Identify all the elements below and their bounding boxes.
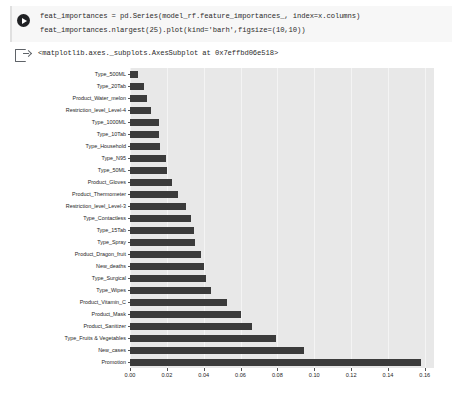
bar bbox=[130, 203, 186, 210]
y-tick-label: Type_20Tab bbox=[97, 83, 126, 90]
bar bbox=[130, 323, 252, 330]
bar-row: Restriction_level_Level-4 bbox=[130, 104, 434, 116]
y-tick-mark bbox=[128, 314, 131, 315]
code-line: feat_importances.nlargest(25).plot(kind=… bbox=[40, 23, 446, 37]
x-tick-mark bbox=[167, 368, 168, 371]
bar bbox=[130, 227, 194, 234]
y-tick-label: New_cases bbox=[98, 347, 126, 354]
bar-row: Type_Contactless bbox=[130, 212, 434, 224]
y-tick-label: Type_Household bbox=[86, 143, 126, 150]
bar-row: Type_10Tab bbox=[130, 128, 434, 140]
run-play-icon[interactable] bbox=[17, 14, 30, 27]
x-tick-mark bbox=[425, 368, 426, 371]
bar-row: Type_N95 bbox=[130, 152, 434, 164]
y-tick-mark bbox=[128, 290, 131, 291]
bar-row: Type_500ML bbox=[130, 68, 434, 80]
y-tick-label: Type_Surgical bbox=[92, 275, 126, 282]
bar bbox=[130, 311, 241, 318]
y-tick-label: New_deaths bbox=[96, 263, 126, 270]
x-tick-label: 0.02 bbox=[161, 372, 172, 378]
y-tick-label: Type_Wipes bbox=[96, 287, 126, 294]
bar bbox=[130, 107, 151, 114]
bar-row: Type_Household bbox=[130, 140, 434, 152]
bar bbox=[130, 347, 304, 354]
bar-row: Product_Vitamin_C bbox=[130, 296, 434, 308]
bar-row: Product_Mask bbox=[130, 308, 434, 320]
bar bbox=[130, 143, 160, 150]
x-tick-label: 0.06 bbox=[235, 372, 246, 378]
y-tick-mark bbox=[128, 230, 131, 231]
y-tick-mark bbox=[128, 362, 131, 363]
bar-row: Type_Fruits & Vegetables bbox=[130, 332, 434, 344]
y-tick-label: Type_1000ML bbox=[92, 119, 126, 126]
y-tick-label: Restriction_level_Level-4 bbox=[66, 107, 126, 114]
bar bbox=[130, 167, 167, 174]
code-cell[interactable]: feat_importances = pd.Series(model_rf.fe… bbox=[10, 6, 452, 42]
y-tick-mark bbox=[128, 134, 131, 135]
y-tick-mark bbox=[128, 194, 131, 195]
bar bbox=[130, 251, 201, 258]
y-tick-mark bbox=[128, 86, 131, 87]
bar-row: Type_Spray bbox=[130, 236, 434, 248]
matplotlib-figure: 0.000.020.040.060.080.100.120.140.16Type… bbox=[0, 64, 460, 404]
y-tick-mark bbox=[128, 98, 131, 99]
y-tick-mark bbox=[128, 266, 131, 267]
x-tick-mark bbox=[388, 368, 389, 371]
y-tick-mark bbox=[128, 182, 131, 183]
bar bbox=[130, 263, 204, 270]
bar bbox=[130, 215, 191, 222]
x-tick-label: 0.14 bbox=[382, 372, 393, 378]
bar bbox=[130, 359, 421, 366]
y-tick-mark bbox=[128, 146, 131, 147]
output-arrow-icon bbox=[15, 49, 26, 62]
bar bbox=[130, 191, 178, 198]
y-tick-mark bbox=[128, 242, 131, 243]
code-editor[interactable]: feat_importances = pd.Series(model_rf.fe… bbox=[40, 9, 446, 37]
y-tick-label: Product_Mask bbox=[92, 311, 126, 318]
bar-row: Type_20Tab bbox=[130, 80, 434, 92]
y-tick-mark bbox=[128, 206, 131, 207]
y-tick-label: Promotion bbox=[101, 359, 126, 366]
chart-axes: 0.000.020.040.060.080.100.120.140.16Type… bbox=[130, 68, 434, 368]
y-tick-label: Product_Gloves bbox=[88, 179, 126, 186]
colab-notebook: feat_importances = pd.Series(model_rf.fe… bbox=[0, 0, 460, 404]
y-tick-mark bbox=[128, 302, 131, 303]
y-tick-mark bbox=[128, 122, 131, 123]
y-tick-mark bbox=[128, 218, 131, 219]
output-cell: <matplotlib.axes._subplots.AxesSubplot a… bbox=[10, 46, 450, 66]
bar bbox=[130, 119, 159, 126]
bar bbox=[130, 335, 276, 342]
bar-row: Restriction_level_Level-3 bbox=[130, 200, 434, 212]
y-tick-label: Restriction_level_Level-3 bbox=[66, 203, 126, 210]
y-tick-mark bbox=[128, 254, 131, 255]
y-tick-label: Type_N95 bbox=[101, 155, 126, 162]
bar bbox=[130, 83, 144, 90]
y-tick-mark bbox=[128, 338, 131, 339]
y-tick-mark bbox=[128, 326, 131, 327]
x-tick-mark bbox=[130, 368, 131, 371]
y-tick-label: Type_50ML bbox=[98, 167, 126, 174]
y-tick-label: Type_Contactless bbox=[83, 215, 126, 222]
x-tick-label: 0.16 bbox=[419, 372, 430, 378]
bar-row: Product_Sanitizer bbox=[130, 320, 434, 332]
bar-row: New_deaths bbox=[130, 260, 434, 272]
bar-row: Product_Thermometer bbox=[130, 188, 434, 200]
y-tick-label: Product_Vitamin_C bbox=[80, 299, 126, 306]
bar-row: Product_Dragon_fruit bbox=[130, 248, 434, 260]
code-line: feat_importances = pd.Series(model_rf.fe… bbox=[40, 9, 446, 23]
bar-row: New_cases bbox=[130, 344, 434, 356]
x-tick-mark bbox=[277, 368, 278, 371]
y-tick-mark bbox=[128, 278, 131, 279]
bar bbox=[130, 95, 147, 102]
bar bbox=[130, 275, 206, 282]
y-tick-label: Product_Water_melon bbox=[73, 95, 126, 102]
bar bbox=[130, 239, 195, 246]
x-tick-label: 0.10 bbox=[309, 372, 320, 378]
x-tick-label: 0.08 bbox=[272, 372, 283, 378]
bar-row: Type_50ML bbox=[130, 164, 434, 176]
y-tick-mark bbox=[128, 158, 131, 159]
y-tick-label: Product_Sanitizer bbox=[83, 323, 126, 330]
bar-row: Type_Surgical bbox=[130, 272, 434, 284]
y-tick-label: Type_500ML bbox=[95, 71, 126, 78]
x-tick-mark bbox=[314, 368, 315, 371]
